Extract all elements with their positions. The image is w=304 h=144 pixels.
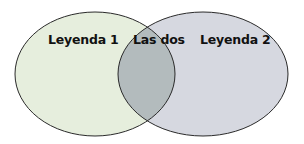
intersection-label: Las dos — [133, 32, 185, 47]
set-1-label: Leyenda 1 — [48, 32, 119, 47]
venn-diagram — [0, 0, 304, 144]
set-2-label: Leyenda 2 — [200, 32, 271, 47]
